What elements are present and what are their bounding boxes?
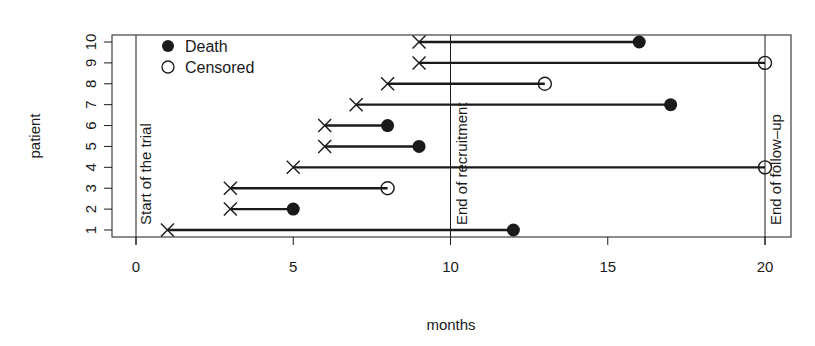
death-marker-icon: [633, 36, 646, 49]
patient-row-7: [350, 98, 678, 111]
y-tick-label: 3: [82, 184, 99, 192]
patient-row-8: [381, 77, 551, 90]
y-tick-label: 7: [82, 100, 99, 108]
legend: Death Censored: [162, 38, 254, 76]
patient-row-4: [287, 161, 772, 174]
legend-death-label: Death: [185, 38, 228, 55]
legend-censored-label: Censored: [185, 59, 254, 76]
y-tick-label: 6: [82, 121, 99, 129]
y-tick-label: 5: [82, 142, 99, 150]
x-tick-label: 0: [132, 258, 140, 275]
censored-marker-icon: [538, 77, 551, 90]
patient-row-2: [224, 203, 300, 216]
legend-death-marker: [162, 40, 174, 52]
legend-censored-marker: [162, 61, 174, 73]
x-axis-title: months: [426, 316, 475, 333]
censored-marker-icon: [759, 161, 772, 174]
patient-row-6: [318, 119, 394, 132]
patient-row-9: [413, 56, 772, 69]
y-tick-label: 2: [82, 205, 99, 213]
censored-marker-icon: [381, 182, 394, 195]
patient-row-5: [318, 140, 425, 153]
x-tick-label: 10: [442, 258, 459, 275]
y-axis: 12345678910: [82, 34, 112, 235]
patient-row-3: [224, 182, 394, 195]
censored-marker-icon: [759, 56, 772, 69]
y-tick-label: 10: [82, 34, 99, 51]
y-tick-label: 4: [82, 163, 99, 171]
death-marker-icon: [664, 98, 677, 111]
ref-label-start: Start of the trial: [137, 123, 154, 225]
ref-label-recruitment: End of recruitment: [453, 102, 470, 225]
y-tick-label: 9: [82, 59, 99, 67]
x-axis: 05101520: [132, 237, 774, 275]
x-tick-label: 5: [289, 258, 297, 275]
death-marker-icon: [507, 224, 520, 237]
death-marker-icon: [287, 203, 300, 216]
x-tick-label: 20: [757, 258, 774, 275]
y-tick-label: 8: [82, 80, 99, 88]
swimmer-chart: 05101520 12345678910 months patient Star…: [0, 0, 815, 346]
x-tick-label: 15: [599, 258, 616, 275]
patient-row-10: [413, 36, 646, 49]
death-marker-icon: [381, 119, 394, 132]
death-marker-icon: [413, 140, 426, 153]
y-axis-title: patient: [26, 113, 43, 159]
y-tick-label: 1: [82, 226, 99, 234]
